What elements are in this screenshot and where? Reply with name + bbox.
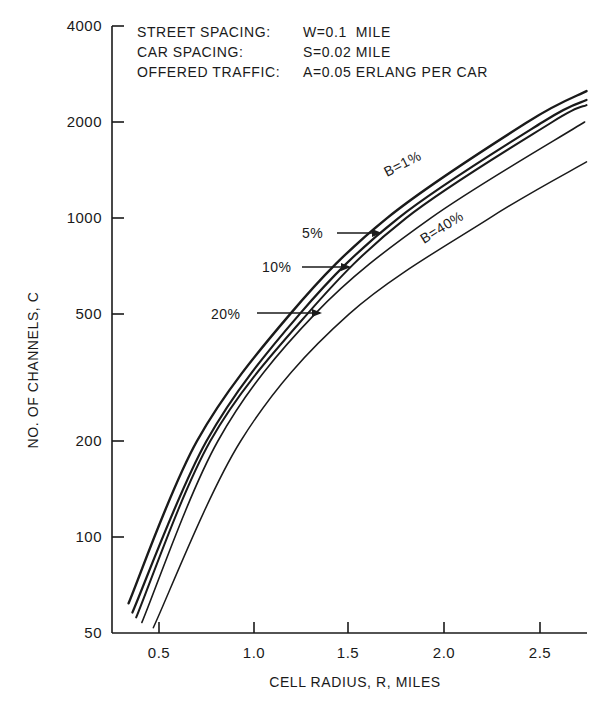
curve-b-5 <box>132 100 586 613</box>
arrow-head-b20 <box>312 309 322 317</box>
car-spacing-label: CAR SPACING: <box>137 44 244 60</box>
offered-traffic-label: OFFERED TRAFFIC: <box>137 64 280 80</box>
street-spacing-label: STREET SPACING: <box>137 24 271 40</box>
curves <box>129 91 587 628</box>
y-tick-label-2000: 2000 <box>67 113 102 130</box>
curve-label-b40: B=40% <box>417 208 466 247</box>
curve-label-b20: 20% <box>211 306 241 322</box>
x-tick-label-2.0: 2.0 <box>433 644 455 661</box>
y-tick-label-100: 100 <box>75 528 102 545</box>
y-tick-label-1000: 1000 <box>67 209 102 226</box>
x-tick-label-1.5: 1.5 <box>337 644 359 661</box>
x-axis-title: CELL RADIUS, R, MILES <box>269 674 441 690</box>
offered-traffic-value: A=0.05 ERLANG PER CAR <box>303 64 488 80</box>
y-tick-label-4000: 4000 <box>67 17 102 34</box>
axes <box>112 26 587 633</box>
curve-label-b10: 10% <box>262 259 292 275</box>
street-spacing-value: W=0.1 MILE <box>303 24 391 40</box>
curve-b-20 <box>142 122 585 622</box>
y-axis-title: NO. OF CHANNELS, C <box>25 291 41 448</box>
y-tick-label-200: 200 <box>75 432 102 449</box>
car-spacing-value: S=0.02 MILE <box>303 44 391 60</box>
y-tick-label-50: 50 <box>84 624 102 641</box>
parameter-block: STREET SPACING: W=0.1 MILE CAR SPACING: … <box>137 24 488 80</box>
x-tick-label-1.0: 1.0 <box>243 644 265 661</box>
x-tick-label-2.5: 2.5 <box>529 644 551 661</box>
curve-label-b1: B=1% <box>381 147 424 179</box>
curve-label-b5: 5% <box>302 225 323 241</box>
curve-b-10 <box>136 105 586 617</box>
curve-labels: B=1% B=40% 5% 10% 20% <box>211 147 466 322</box>
x-ticks: 0.5 1.0 1.5 2.0 2.5 <box>148 622 551 661</box>
channels-vs-radius-chart: 4000 2000 1000 500 200 100 50 0.5 1.0 1.… <box>0 0 608 708</box>
x-tick-label-0.5: 0.5 <box>148 644 170 661</box>
y-ticks: 4000 2000 1000 500 200 100 50 <box>67 17 124 641</box>
y-tick-label-500: 500 <box>75 305 102 322</box>
